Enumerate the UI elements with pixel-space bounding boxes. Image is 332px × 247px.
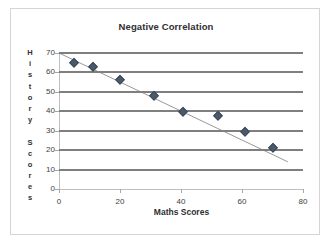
x-tick-mark (181, 189, 182, 193)
y-tick-label: 70 (33, 48, 55, 57)
y-tick-label: 60 (33, 67, 55, 76)
y-tick-mark (55, 53, 59, 54)
gridline (59, 149, 303, 151)
gridline (59, 71, 303, 73)
y-tick-label: 10 (33, 165, 55, 174)
y-axis-title-letter: s (23, 192, 37, 203)
y-tick-label: 0 (33, 184, 55, 193)
y-tick-label: 50 (33, 87, 55, 96)
x-tick-label: 0 (46, 197, 72, 206)
y-tick-mark (55, 150, 59, 151)
gridline (59, 52, 303, 54)
gridline (59, 91, 303, 93)
x-tick-mark (242, 189, 243, 193)
y-tick-mark (55, 111, 59, 112)
y-tick-mark (55, 131, 59, 132)
y-axis-title-letter: y (23, 114, 37, 125)
chart-container: Negative Correlation History Scores Math… (10, 8, 320, 235)
gridline (59, 169, 303, 171)
y-tick-label: 20 (33, 145, 55, 154)
x-tick-label: 80 (290, 197, 316, 206)
gridline (59, 130, 303, 132)
y-tick-mark (55, 170, 59, 171)
y-tick-label: 40 (33, 106, 55, 115)
x-tick-mark (59, 189, 60, 193)
x-tick-label: 60 (229, 197, 255, 206)
y-tick-mark (55, 92, 59, 93)
plot-area (59, 53, 303, 189)
y-tick-mark (55, 72, 59, 73)
x-axis-title: Maths Scores (59, 207, 304, 217)
x-tick-mark (303, 189, 304, 193)
chart-title: Negative Correlation (11, 21, 321, 32)
x-tick-mark (120, 189, 121, 193)
x-tick-label: 20 (107, 197, 133, 206)
x-tick-label: 40 (168, 197, 194, 206)
y-tick-label: 30 (33, 126, 55, 135)
